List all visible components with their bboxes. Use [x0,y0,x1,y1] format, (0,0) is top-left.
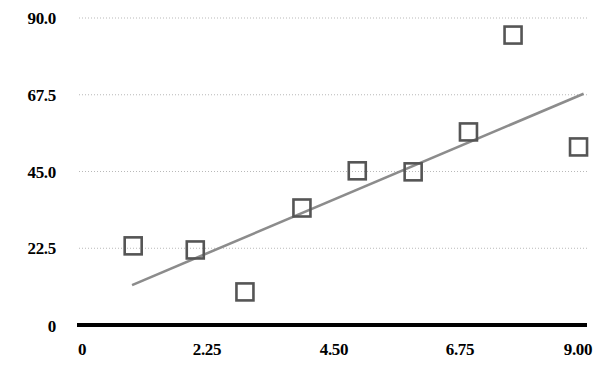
scatter-chart: 90.0 67.5 45.0 22.5 0 0 2.25 4.50 6.75 9… [0,0,605,366]
x-tick-label-450: 4.50 [320,341,349,358]
data-point-marker [570,138,587,155]
data-point-marker [236,283,253,300]
y-tick-label-45: 45.0 [27,164,56,181]
trend-line [132,94,584,285]
x-tick-label-225: 2.25 [193,341,222,358]
trend-line-segment [132,94,584,285]
data-point-marker [505,27,522,44]
data-point-marker [125,237,142,254]
x-tick-label-675: 6.75 [446,341,475,358]
data-point-marker [349,162,366,179]
data-point-marker [460,123,477,140]
y-tick-label-67: 67.5 [27,87,56,104]
x-tick-label-0: 0 [78,341,86,358]
data-points [125,27,587,301]
y-tick-label-90: 90.0 [27,10,56,27]
y-tick-label-22: 22.5 [27,240,56,257]
gridlines [79,18,587,248]
chart-plot-area [0,0,605,366]
x-tick-label-900: 9.00 [564,341,593,358]
y-tick-label-0: 0 [48,318,56,335]
